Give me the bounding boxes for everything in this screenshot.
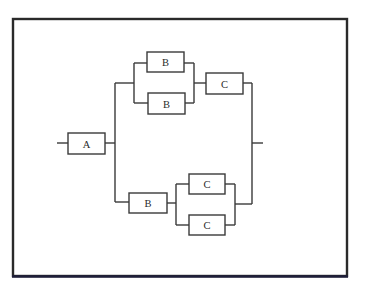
- block-b1: B: [147, 52, 184, 72]
- block-b1-label: B: [162, 57, 169, 68]
- reliability-block-diagram: A B B C B C C: [0, 0, 367, 287]
- block-c1: C: [206, 73, 243, 94]
- block-b2-label: B: [163, 99, 170, 110]
- block-b3-label: B: [144, 198, 151, 209]
- block-a-label: A: [83, 139, 91, 150]
- block-b2: B: [148, 93, 185, 114]
- block-c2-label: C: [203, 179, 210, 190]
- block-c2: C: [189, 174, 225, 194]
- block-c3-label: C: [203, 220, 210, 231]
- block-b3: B: [129, 193, 167, 213]
- block-c3: C: [189, 215, 225, 235]
- block-c1-label: C: [221, 79, 228, 90]
- block-a: A: [68, 133, 105, 154]
